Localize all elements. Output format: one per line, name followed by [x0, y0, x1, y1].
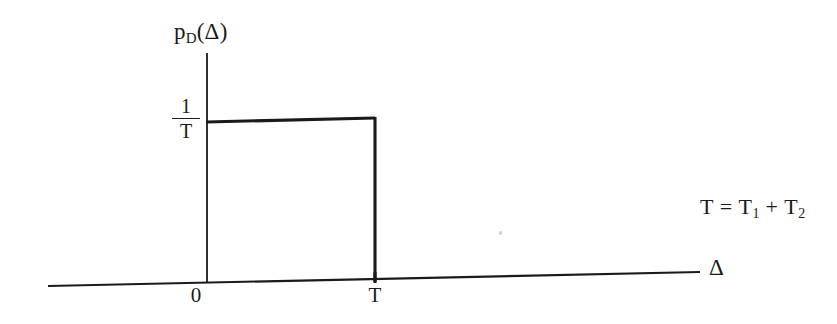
equation-subscript-two: 2	[798, 206, 805, 221]
figure-canvas: pD(Δ) 1 T 0 T Δ T = T1 + T2	[0, 0, 837, 324]
pulse-top-edge	[206, 118, 375, 122]
scan-artifact-speck	[499, 231, 502, 235]
y-axis-label-base: p	[174, 19, 186, 44]
x-axis-tick-label-zero: 0	[183, 285, 209, 306]
y-axis-label-subscript: D	[186, 30, 197, 46]
fraction-numerator: 1	[170, 96, 202, 118]
x-axis-label: Δ	[709, 256, 724, 279]
equation-prefix: T = T	[700, 194, 753, 219]
y-axis-label: pD(Δ)	[174, 20, 228, 46]
equation-subscript-one: 1	[753, 206, 760, 221]
y-axis-label-argument: (Δ)	[197, 19, 228, 44]
fraction-denominator: T	[170, 119, 202, 143]
y-axis-tick-label-one-over-t: 1 T	[170, 96, 202, 143]
x-axis-tick-label-t: T	[362, 285, 388, 306]
equation-middle: + T	[760, 194, 799, 219]
equation-annotation: T = T1 + T2	[700, 196, 805, 221]
